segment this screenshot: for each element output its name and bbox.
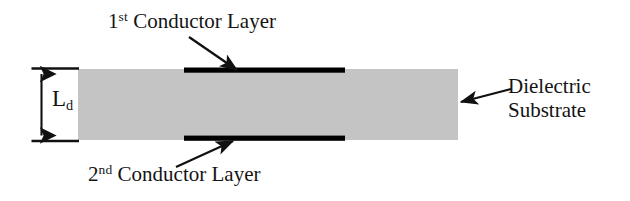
thickness-symbol: L — [52, 86, 66, 111]
first-conductor-ordinal-suffix: st — [119, 9, 128, 24]
callout-arrow-dielectric-substrate — [461, 89, 511, 102]
dielectric-substrate-body — [78, 69, 458, 140]
second-conductor-label-text: Conductor Layer — [112, 162, 260, 186]
second-conductor-ordinal-suffix: nd — [99, 162, 113, 177]
second-conductor-layer-bar — [184, 136, 345, 141]
dielectric-substrate-label: Dielectric Substrate — [508, 75, 591, 122]
callout-arrow-first-conductor — [189, 37, 237, 70]
thickness-dimension-label: Ld — [52, 86, 73, 114]
dielectric-substrate-label-line2: Substrate — [508, 99, 591, 123]
second-conductor-layer-label: 2nd Conductor Layer — [88, 162, 260, 187]
first-conductor-layer-label: 1st Conductor Layer — [108, 9, 276, 34]
second-conductor-ordinal-number: 2 — [88, 162, 99, 186]
thickness-subscript: d — [66, 97, 73, 113]
first-conductor-ordinal-number: 1 — [108, 9, 119, 33]
first-conductor-label-text: Conductor Layer — [128, 9, 276, 33]
dielectric-substrate-label-line1: Dielectric — [508, 75, 591, 99]
first-conductor-layer-bar — [184, 68, 345, 73]
cross-section-figure: 1st Conductor Layer 2nd Conductor Layer … — [0, 0, 630, 201]
